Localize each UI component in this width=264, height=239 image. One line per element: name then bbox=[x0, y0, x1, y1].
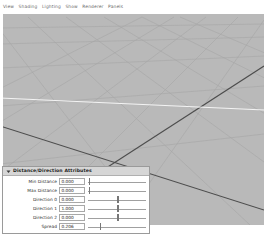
menu-item-renderer[interactable]: Renderer bbox=[82, 4, 103, 10]
menu-item-view[interactable]: View bbox=[3, 4, 14, 10]
slider-track bbox=[88, 227, 146, 228]
direction-1-field[interactable]: 1.000 bbox=[59, 205, 85, 212]
application-window: View Shading Lighting Show Renderer Pane… bbox=[0, 0, 264, 239]
attribute-row-direction-2: Direction 2 0.000 bbox=[3, 213, 149, 222]
menu-item-lighting[interactable]: Lighting bbox=[42, 4, 61, 10]
attribute-row-direction-1: Direction 1 1.000 bbox=[3, 204, 149, 213]
attribute-row-min-distance: Min Distance 0.000 bbox=[3, 177, 149, 186]
panel-body: Min Distance 0.000 Max Distance 0.000 Di… bbox=[3, 176, 149, 231]
slider-handle[interactable] bbox=[117, 214, 119, 221]
slider-track bbox=[88, 191, 146, 192]
spread-slider[interactable] bbox=[88, 223, 146, 231]
slider-handle[interactable] bbox=[117, 196, 119, 203]
direction-1-slider[interactable] bbox=[88, 205, 146, 213]
menu-item-panels[interactable]: Panels bbox=[108, 4, 123, 10]
attribute-label: Spread bbox=[5, 224, 59, 230]
slider-handle[interactable] bbox=[100, 223, 102, 230]
panel-title: Distance/Direction Attributes bbox=[13, 168, 92, 174]
panel-header[interactable]: Distance/Direction Attributes bbox=[3, 167, 149, 176]
slider-handle[interactable] bbox=[117, 205, 119, 212]
attribute-row-direction-0: Direction 0 0.000 bbox=[3, 195, 149, 204]
attribute-row-max-distance: Max Distance 0.000 bbox=[3, 186, 149, 195]
min-distance-slider[interactable] bbox=[88, 178, 146, 186]
menu-item-show[interactable]: Show bbox=[65, 4, 77, 10]
direction-0-field[interactable]: 0.000 bbox=[59, 196, 85, 203]
attribute-label: Min Distance bbox=[5, 179, 59, 185]
distance-direction-attributes-panel: Distance/Direction Attributes Min Distan… bbox=[2, 166, 150, 234]
attribute-row-spread: Spread 0.206 bbox=[3, 222, 149, 231]
direction-2-slider[interactable] bbox=[88, 214, 146, 222]
attribute-label: Direction 2 bbox=[5, 215, 59, 221]
direction-2-field[interactable]: 0.000 bbox=[59, 214, 85, 221]
menu-item-shading[interactable]: Shading bbox=[19, 4, 38, 10]
max-distance-field[interactable]: 0.000 bbox=[59, 187, 85, 194]
attribute-label: Direction 0 bbox=[5, 197, 59, 203]
max-distance-slider[interactable] bbox=[88, 187, 146, 195]
attribute-label: Max Distance bbox=[5, 188, 59, 194]
triangle-down-icon[interactable] bbox=[5, 168, 11, 175]
menu-bar: View Shading Lighting Show Renderer Pane… bbox=[0, 0, 264, 14]
spread-field[interactable]: 0.206 bbox=[59, 223, 85, 230]
min-distance-field[interactable]: 0.000 bbox=[59, 178, 85, 185]
direction-0-slider[interactable] bbox=[88, 196, 146, 204]
slider-handle[interactable] bbox=[89, 187, 91, 194]
attribute-label: Direction 1 bbox=[5, 206, 59, 212]
slider-handle[interactable] bbox=[89, 178, 91, 185]
slider-track bbox=[88, 182, 146, 183]
